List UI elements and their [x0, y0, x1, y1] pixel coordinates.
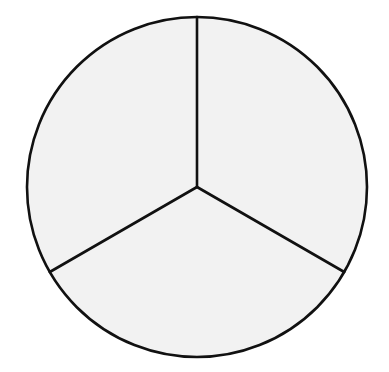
circle-diagram	[0, 0, 389, 372]
